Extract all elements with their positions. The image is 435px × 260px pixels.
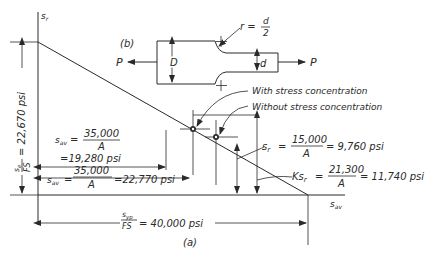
svg-text:A: A	[302, 148, 310, 159]
left-dim-fraction-den: FS	[23, 162, 32, 172]
svg-text:FS: FS	[122, 222, 132, 231]
svg-text:= 11,740 psi: = 11,740 psi	[360, 171, 424, 182]
left-dim-fraction-num: se	[12, 164, 22, 172]
dim-with-sc: sav = 35,000 A =19,280 psi	[40, 128, 166, 170]
leader-sr	[237, 147, 264, 159]
label-without-sc: Without stress concentration	[252, 102, 383, 112]
svg-text:15,000: 15,000	[292, 134, 327, 145]
subfigure-b-label: (b)	[120, 38, 134, 49]
label-with-sc: With stress concentration	[252, 86, 368, 96]
svg-text:=: =	[64, 174, 72, 185]
svg-text:=: =	[278, 141, 286, 152]
leader-with-sc	[197, 91, 248, 126]
subfigure-a-label: (a)	[183, 237, 197, 248]
svg-text:A: A	[87, 179, 95, 190]
svg-text:=: =	[70, 134, 78, 145]
specimen-sketch: (b) P P D d r = d 2	[116, 16, 317, 91]
bottom-dimension: syp FS = 40,000 psi	[40, 195, 308, 245]
svg-text:A: A	[97, 141, 105, 152]
goodman-diagram-figure: sr sav se FS = 22,670 psi With stress co	[0, 0, 435, 260]
svg-text:A: A	[337, 178, 345, 189]
dim-without-sc: sav = 35,000 A =22,770 psi	[40, 165, 189, 190]
svg-text:=19,280 psi: =19,280 psi	[60, 153, 121, 164]
svg-text:P: P	[310, 56, 317, 69]
leader-ksr	[257, 176, 292, 180]
x-axis-label: sav	[330, 199, 342, 210]
point-with-stress-concentration	[180, 110, 210, 175]
svg-text:= 40,000 psi: = 40,000 psi	[139, 218, 203, 229]
y-axis-label: sr	[41, 11, 49, 22]
svg-text:= 9,760 psi: = 9,760 psi	[326, 141, 384, 152]
ksr-annotation: Ksr = 21,300 A = 11,740 psi	[292, 164, 424, 189]
svg-text:d: d	[260, 58, 267, 69]
sr-annotation: sr = 15,000 A = 9,760 psi	[262, 134, 384, 159]
left-dim-value: = 22,670 psi	[16, 92, 27, 156]
svg-text:21,300: 21,300	[329, 164, 364, 175]
svg-text:sav: sav	[47, 175, 59, 186]
svg-text:sav: sav	[55, 135, 67, 146]
axes: sr sav	[38, 11, 345, 225]
svg-text:=22,770 psi: =22,770 psi	[114, 174, 175, 185]
svg-text:r =: r =	[240, 21, 256, 32]
svg-text:35,000: 35,000	[74, 165, 109, 176]
svg-text:2: 2	[263, 28, 269, 38]
left-dimension: se FS = 22,670 psi	[10, 42, 38, 195]
svg-text:P: P	[116, 56, 123, 69]
svg-text:=: =	[315, 171, 323, 182]
leader-without-sc	[220, 106, 248, 134]
svg-text:d: d	[263, 16, 269, 26]
svg-text:sr: sr	[262, 141, 271, 154]
svg-text:Ksr: Ksr	[292, 171, 308, 184]
svg-text:35,000: 35,000	[84, 128, 119, 139]
svg-text:D: D	[170, 57, 178, 68]
svg-text:syp: syp	[122, 210, 133, 221]
diagram-svg: sr sav se FS = 22,670 psi With stress co	[0, 0, 435, 260]
